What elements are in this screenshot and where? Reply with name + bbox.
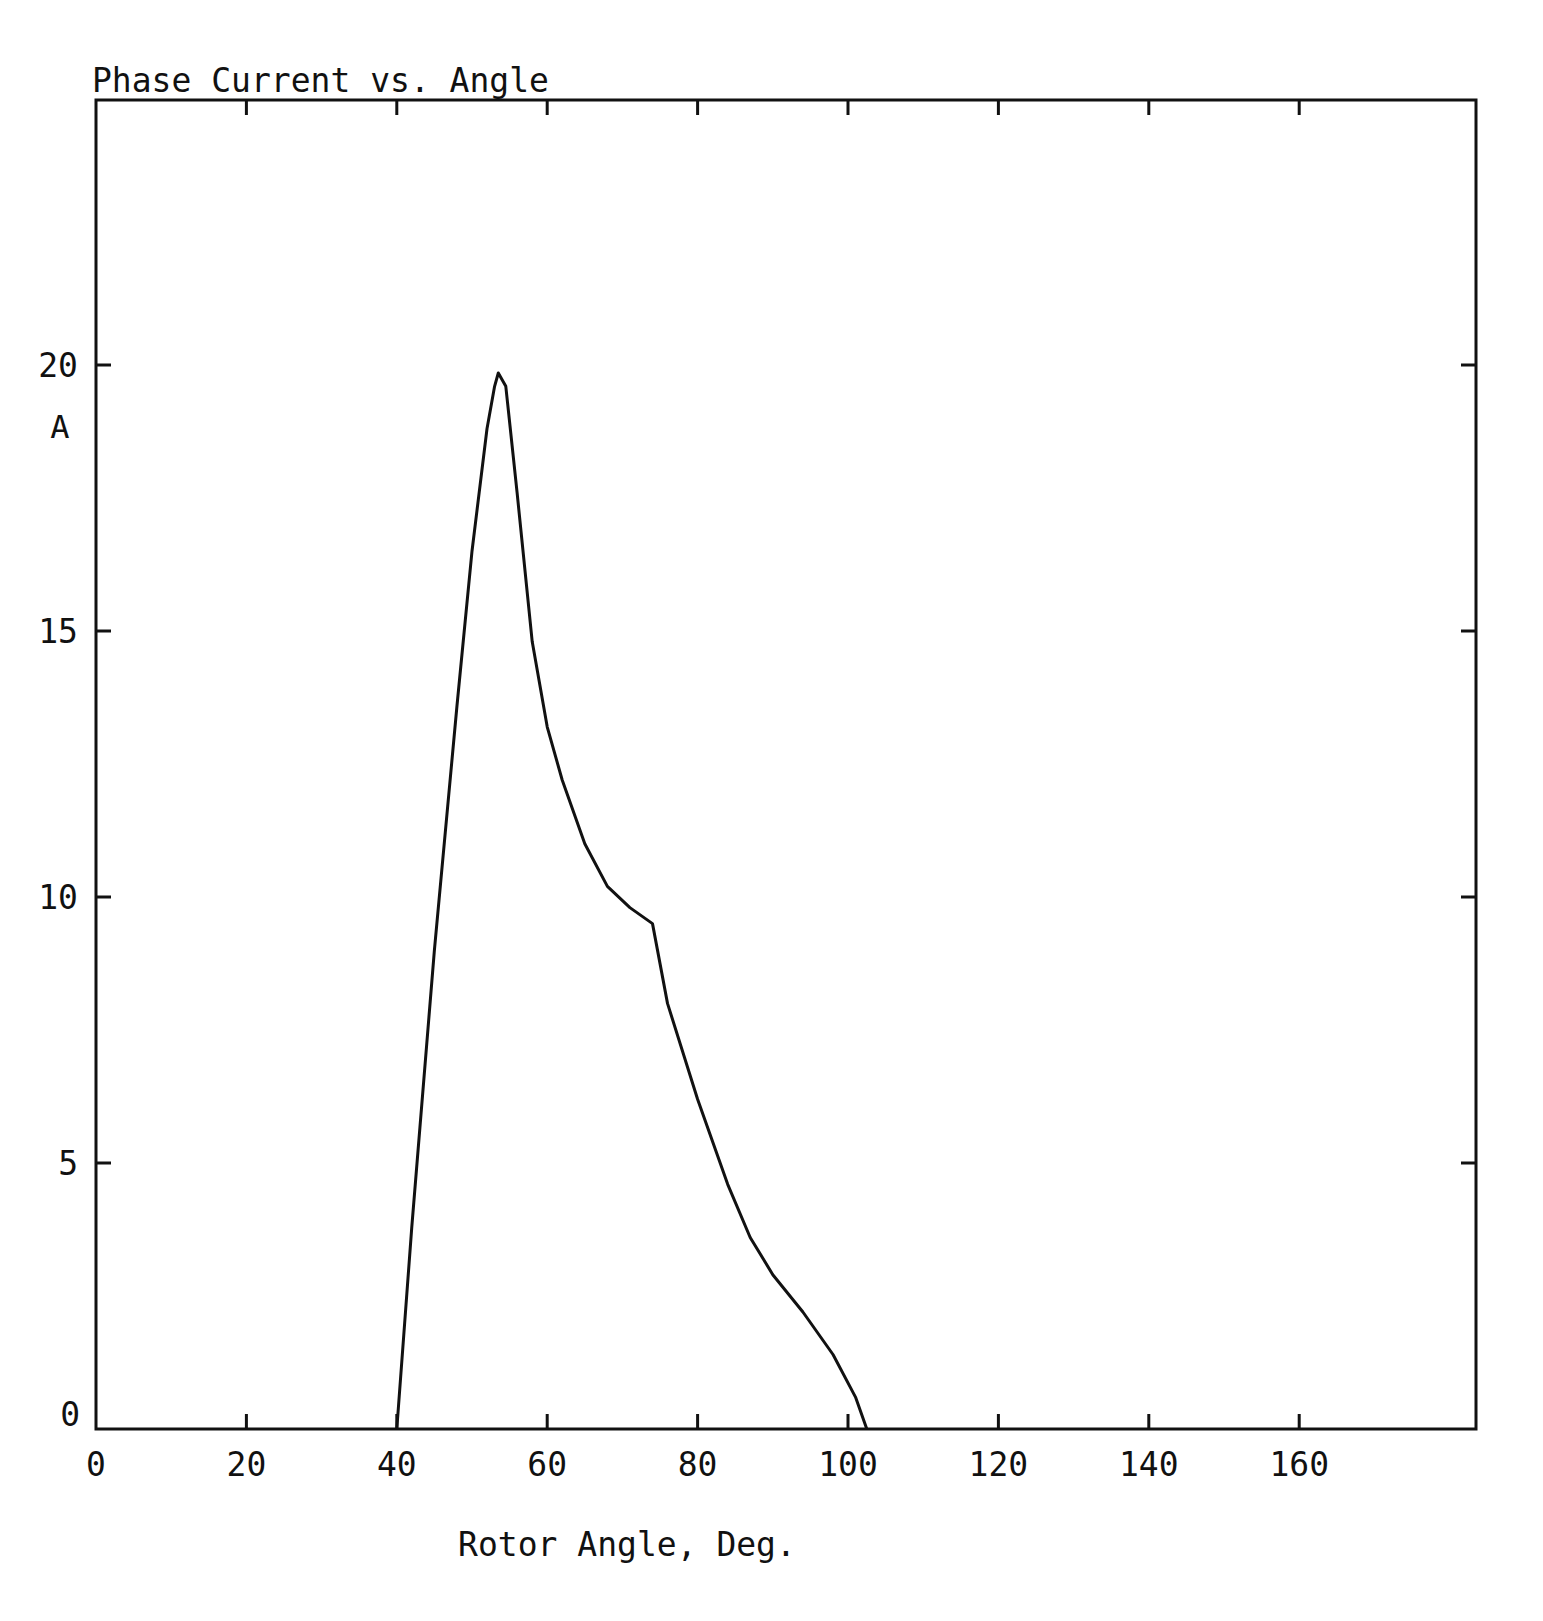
y-tick-label: 5 [58,1144,78,1183]
chart-title: Phase Current vs. Angle [92,61,549,100]
x-tick-label: 40 [377,1445,417,1484]
x-tick-label: 80 [678,1445,718,1484]
x-tick-label: 120 [969,1445,1029,1484]
y-tick-label: 0 [60,1395,80,1434]
x-axis-label: Rotor Angle, Deg. [458,1525,796,1564]
x-tick-label: 160 [1269,1445,1329,1484]
x-tick-label: 140 [1119,1445,1179,1484]
phase-current-line [397,373,867,1429]
y-axis-ticks: 05101520 [38,346,1476,1434]
y-axis-label: A [50,408,69,446]
chart: Phase Current vs. Angle 0204060801001201… [0,0,1543,1621]
y-tick-label: 10 [38,878,78,917]
x-tick-label: 20 [227,1445,267,1484]
x-axis-ticks: 020406080100120140160 [86,100,1329,1484]
x-tick-label: 0 [86,1445,106,1484]
x-tick-label: 60 [527,1445,567,1484]
y-tick-label: 20 [38,346,78,385]
y-tick-label: 15 [38,612,78,651]
x-tick-label: 100 [818,1445,878,1484]
plot-frame [96,100,1476,1429]
